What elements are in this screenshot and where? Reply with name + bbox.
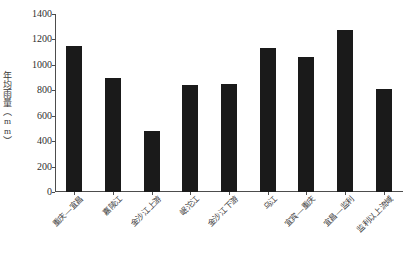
y-axis-title: 年均雨量（mm） — [0, 38, 14, 178]
plot-area — [55, 14, 403, 192]
y-axis-tick-label: 800 — [16, 85, 52, 95]
y-axis-tick-label: 1000 — [16, 60, 52, 70]
y-axis-tick-labels: 0200400600800100012001400 — [16, 0, 52, 200]
y-axis-tick-mark — [52, 14, 55, 15]
bar — [221, 84, 237, 192]
y-axis-tick-mark — [52, 65, 55, 66]
bar — [144, 131, 160, 192]
x-axis-tick-label: 监利以上流域 — [355, 194, 395, 234]
bars-layer — [55, 14, 403, 192]
x-axis-tick-labels: 重庆—宜昌嘉陵江金沙江上游岷沱江金沙江下游乌江宜宾—重庆宜昌—监利监利以上流域 — [55, 192, 411, 255]
bar — [66, 46, 82, 192]
bar — [298, 57, 314, 192]
x-axis-tick-label: 金沙江下游 — [206, 194, 241, 229]
y-axis-tick-mark — [52, 39, 55, 40]
bar — [376, 89, 392, 192]
x-axis-tick-label: 宜宾—重庆 — [283, 194, 318, 229]
x-axis-tick-label: 金沙江上游 — [128, 194, 163, 229]
bar — [105, 78, 121, 192]
y-axis-tick-label: 200 — [16, 162, 52, 172]
x-axis-tick-label: 宜昌—监利 — [322, 194, 357, 229]
y-axis-tick-mark — [52, 167, 55, 168]
x-axis-tick-label: 重庆—宜昌 — [51, 194, 86, 229]
x-axis-tick-label: 乌江 — [261, 194, 279, 212]
y-axis-tick-mark — [52, 90, 55, 91]
bar — [337, 30, 353, 192]
bar — [182, 85, 198, 192]
y-axis-tick-label: 0 — [16, 187, 52, 197]
x-axis-tick-label: 嘉陵江 — [101, 194, 124, 217]
x-axis-tick-label: 岷沱江 — [178, 194, 201, 217]
y-axis-tick-mark — [52, 141, 55, 142]
bar-chart: 年均雨量（mm） 0200400600800100012001400 重庆—宜昌… — [0, 0, 411, 255]
y-axis-tick-label: 400 — [16, 136, 52, 146]
bar — [260, 48, 276, 192]
y-axis-tick-label: 1400 — [16, 9, 52, 19]
y-axis-tick-mark — [52, 116, 55, 117]
y-axis-tick-label: 600 — [16, 111, 52, 121]
y-axis-tick-label: 1200 — [16, 34, 52, 44]
